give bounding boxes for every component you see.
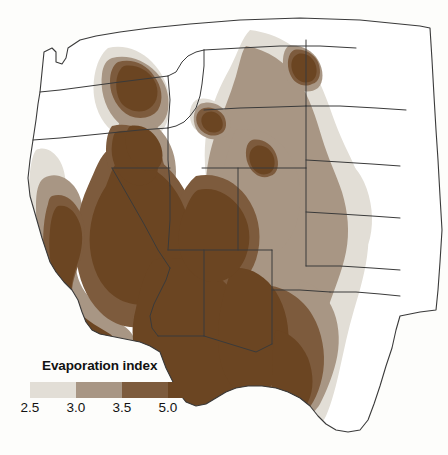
legend-swatch-2 (76, 382, 122, 398)
legend-swatch-1 (30, 382, 76, 398)
legend-label-1: 2.5 (21, 400, 40, 415)
legend: Evaporation index 2.5 3.0 3.5 5.0 (28, 358, 228, 418)
legend-swatch-3 (122, 382, 168, 398)
legend-label-2: 3.0 (67, 400, 86, 415)
legend-label-3: 3.5 (113, 400, 132, 415)
legend-tick-labels: 2.5 3.0 3.5 5.0 (30, 400, 214, 418)
legend-label-4: 5.0 (159, 400, 178, 415)
evaporation-index-map: Evaporation index 2.5 3.0 3.5 5.0 (0, 0, 448, 455)
legend-title: Evaporation index (42, 358, 228, 373)
legend-swatch-4 (168, 382, 214, 398)
legend-color-bar (30, 382, 214, 398)
